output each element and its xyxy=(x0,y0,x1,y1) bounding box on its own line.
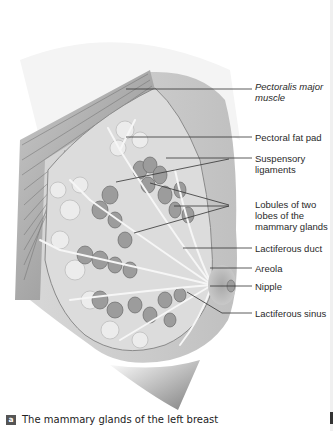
label-nipple: Nipple xyxy=(255,281,331,292)
label-areola: Areola xyxy=(255,263,331,274)
label-lactiferous-duct: Lactiferous duct xyxy=(255,243,331,254)
shadow xyxy=(110,360,200,410)
label-lactiferous-sinus: Lactiferous sinus xyxy=(255,308,331,319)
caption-text: The mammary glands of the left breast xyxy=(22,414,218,425)
anatomy-figure: Pectoralis major muscle Pectoral fat pad… xyxy=(0,0,333,431)
figure-caption: a The mammary glands of the left breast xyxy=(6,414,218,425)
label-pectoral-fat-pad: Pectoral fat pad xyxy=(255,132,331,143)
label-suspensory-ligaments: Suspensory ligaments xyxy=(255,153,325,175)
caption-badge: a xyxy=(6,415,16,425)
label-lobules: Lobules of two lobes of the mammary glan… xyxy=(255,199,329,232)
label-pectoralis-major: Pectoralis major muscle xyxy=(255,81,331,103)
